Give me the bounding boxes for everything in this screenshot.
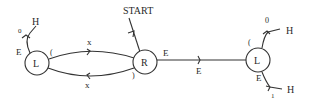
l2-e-label: E xyxy=(256,73,262,83)
r-e-label: E xyxy=(163,48,169,58)
l2-zero-label: 0 xyxy=(265,16,269,25)
l1-h-zero-label: 0 xyxy=(18,27,22,35)
node-l1: L xyxy=(25,51,49,75)
l2-one-label: 1 xyxy=(271,92,275,100)
top-x-label: x xyxy=(87,37,92,47)
node-l1-label: L xyxy=(33,58,39,69)
node-l2: L xyxy=(246,48,270,72)
edge-r-to-l2: E E xyxy=(157,48,246,76)
edge-r-to-l1-bottom: x xyxy=(48,68,134,90)
l2-paren-open: ( xyxy=(248,38,251,47)
l1-paren-open: ( xyxy=(50,48,53,57)
edge-l2-to-h-top: 0 H ( xyxy=(248,16,293,48)
bottom-x-label: x xyxy=(85,80,90,90)
edge-l2-to-h-bottom: E 1 H xyxy=(256,72,294,100)
l1-e-label: E xyxy=(16,47,22,57)
node-r-label: R xyxy=(141,57,148,68)
r-paren-close: ) xyxy=(132,71,135,80)
start-label: START xyxy=(123,5,153,16)
node-r: R xyxy=(133,50,157,74)
state-diagram: START x x ( ) H 0 E E E xyxy=(0,0,309,103)
l2-h-bottom-label: H xyxy=(287,84,294,95)
node-l2-label: L xyxy=(254,55,260,66)
mid-e-label: E xyxy=(196,66,202,76)
start-arrow: START xyxy=(123,5,153,52)
edge-l1-to-r-top: x xyxy=(49,37,134,59)
l2-h-top-label: H xyxy=(286,25,293,36)
l1-h-label: H xyxy=(32,16,39,27)
